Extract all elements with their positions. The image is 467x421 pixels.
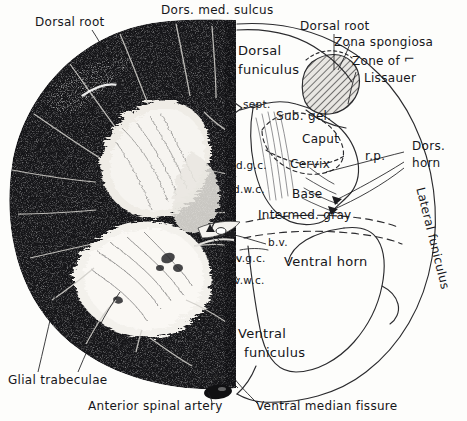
label-sub-gel: Sub. gel.: [276, 110, 331, 123]
lissauer-tick-icon: ⌐: [404, 52, 415, 67]
label-vwc: v.w.c.: [234, 275, 265, 287]
label-cervix: Cervix: [290, 158, 330, 171]
label-glial-trabeculae: Glial trabeculae: [8, 374, 108, 387]
ventral-median-fissure-contour: [237, 366, 256, 394]
label-lissauer: Lissauer: [364, 72, 416, 85]
label-ventral-funiculus-line2: funiculus: [244, 346, 305, 361]
label-base: Base: [292, 188, 322, 201]
label-dwc: d.w.c.: [233, 184, 265, 196]
spinal-cord-figure: Dorsal root Dors. med. sulcus Dorsal roo…: [0, 0, 467, 421]
label-dors-med-sulcus: Dors. med. sulcus: [161, 4, 273, 17]
label-zona-spongiosa: Zona spongiosa: [334, 36, 433, 49]
leader-ventral-median-fissure: [234, 378, 258, 404]
label-zone-of: Zone of: [352, 55, 400, 68]
leader-rp-1: [336, 162, 404, 200]
leader-rp-2: [332, 168, 404, 210]
label-anterior-spinal-artery: Anterior spinal artery: [88, 400, 223, 413]
label-ventral-horn: Ventral horn: [284, 255, 367, 270]
label-vgc: v.g.c.: [236, 253, 266, 265]
label-dorsal-funiculus-line1: Dorsal: [238, 44, 281, 59]
label-dors-horn-line1: Dors.: [412, 140, 445, 153]
label-caput: Caput: [302, 133, 339, 146]
label-rp: r.p.: [365, 150, 385, 163]
label-dorsal-funiculus-line2: funiculus: [238, 63, 299, 78]
label-intermed-gray: Intermed. gray: [258, 209, 351, 222]
label-dorsal-root-left: Dorsal root: [35, 16, 105, 29]
label-dorsal-root-right: Dorsal root: [300, 20, 370, 33]
photomicrograph-half: [9, 20, 236, 390]
label-ventral-funiculus-line1: Ventral: [238, 327, 286, 342]
central-canal: [216, 228, 226, 235]
ventral-horn-lateral-notch: [382, 286, 399, 324]
label-dgc: d.g.c.: [236, 160, 267, 172]
label-ventral-median-fissure: Ventral median fissure: [256, 400, 398, 413]
label-bv: b.v.: [268, 237, 288, 249]
label-dors-horn-line2: horn: [412, 157, 440, 170]
zone-of-lissauer-wedge: [302, 55, 359, 115]
label-sept: sept.: [243, 99, 271, 111]
